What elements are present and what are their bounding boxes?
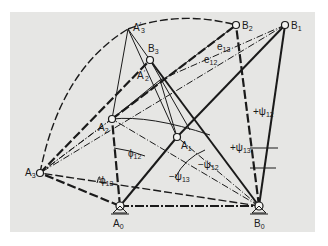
joint-A2 <box>109 116 116 123</box>
joint-A1 <box>174 134 181 141</box>
joint-B3 <box>147 57 154 64</box>
joint-A3 <box>37 170 44 177</box>
joint-B2 <box>233 22 240 29</box>
joint-B1 <box>282 22 289 29</box>
linkage-diagram: A0 B0 A1 A2 A3 B1 B2 B3 A′2 A′3 e13 e12 … <box>0 0 328 246</box>
